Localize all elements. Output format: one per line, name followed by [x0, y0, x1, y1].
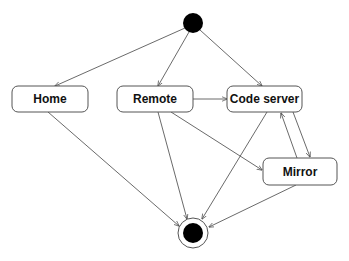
transition-remote-to-mirror — [171, 112, 262, 170]
transition-code-server-to-mirror — [293, 112, 310, 157]
transition-home-to-end — [48, 112, 179, 226]
terminal-nodes — [178, 13, 208, 248]
transition-start-to-remote — [158, 32, 189, 86]
transition-start-to-code-server — [200, 30, 262, 86]
transitions — [48, 28, 310, 227]
transition-mirror-to-end — [209, 185, 296, 227]
state-remote[interactable]: Remote — [117, 86, 193, 112]
state-home[interactable]: Home — [12, 86, 88, 112]
states: HomeRemoteCode serverMirror — [12, 86, 337, 185]
state-label: Remote — [133, 92, 177, 106]
transition-code-server-to-end — [202, 112, 267, 219]
state-code-server[interactable]: Code server — [227, 86, 302, 112]
transition-remote-to-end — [158, 112, 187, 219]
transition-start-to-home — [55, 28, 185, 86]
initial-state-icon — [183, 13, 203, 33]
final-state-icon — [178, 218, 208, 248]
state-label: Code server — [230, 92, 300, 106]
state-label: Mirror — [283, 165, 318, 179]
state-mirror[interactable]: Mirror — [263, 158, 337, 185]
transition-mirror-to-code-server — [281, 113, 297, 158]
state-label: Home — [33, 92, 67, 106]
state-diagram: HomeRemoteCode serverMirror — [0, 0, 349, 261]
